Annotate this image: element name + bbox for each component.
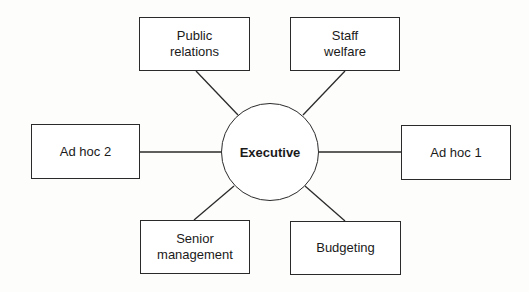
edge-staff-welfare — [303, 71, 345, 115]
node-label-line1: Senior — [157, 231, 233, 247]
edge-senior-management — [194, 186, 234, 220]
node-ad-hoc-1: Ad hoc 1 — [401, 125, 511, 180]
node-ad-hoc-2: Ad hoc 2 — [31, 124, 140, 179]
node-label-line1: Staff — [324, 28, 366, 44]
node-label-line2: management — [157, 247, 233, 263]
executive-hub: Executive — [221, 103, 319, 201]
node-label-line2: relations — [170, 44, 219, 60]
diagram-canvas: Executive Public relations Staff welfare… — [0, 0, 529, 292]
node-label-line1: Public — [170, 28, 219, 44]
node-senior-management: Senior management — [140, 220, 250, 274]
node-public-relations: Public relations — [139, 17, 250, 71]
node-label-line1: Budgeting — [316, 240, 375, 256]
edge-budgeting — [305, 186, 345, 221]
hub-label: Executive — [240, 145, 301, 160]
node-staff-welfare: Staff welfare — [290, 17, 400, 71]
node-label-line2: welfare — [324, 44, 366, 60]
edge-public-relations — [196, 71, 238, 115]
node-label-line1: Ad hoc 2 — [60, 144, 111, 160]
node-budgeting: Budgeting — [290, 221, 401, 275]
node-label-line1: Ad hoc 1 — [430, 145, 481, 161]
